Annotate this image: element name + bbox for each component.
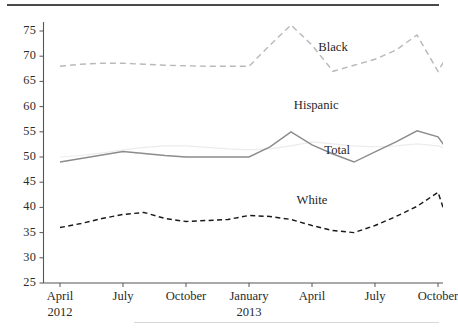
x-axis-tick-label: July bbox=[113, 289, 134, 304]
y-axis-tick-label: 75 bbox=[10, 23, 36, 38]
x-axis-year-label: 2013 bbox=[236, 305, 261, 320]
series-line-black bbox=[60, 25, 443, 71]
y-axis-tick-label: 70 bbox=[10, 48, 36, 63]
x-axis-tick-label: October bbox=[418, 289, 458, 304]
y-axis-tick-label: 30 bbox=[10, 250, 36, 265]
x-axis-tick-label: April bbox=[47, 289, 74, 304]
y-axis-tick-label: 35 bbox=[10, 225, 36, 240]
x-axis-year-label: 2012 bbox=[47, 305, 72, 320]
y-axis-tick-label: 40 bbox=[10, 199, 36, 214]
series-line-hispanic bbox=[60, 142, 443, 157]
series-label-hispanic: Hispanic bbox=[294, 98, 339, 113]
series-label-white: White bbox=[297, 193, 328, 208]
series-label-black: Black bbox=[318, 40, 347, 55]
y-axis-tick-label: 25 bbox=[10, 275, 36, 290]
series-line-white bbox=[60, 192, 443, 255]
y-axis-tick-label: 45 bbox=[10, 174, 36, 189]
y-axis-tick-label: 55 bbox=[10, 124, 36, 139]
y-axis-tick-label: 60 bbox=[10, 99, 36, 114]
y-axis-tick-label: 65 bbox=[10, 73, 36, 88]
series-line-total bbox=[60, 131, 443, 166]
chart-axes bbox=[40, 22, 444, 287]
x-axis-tick-label: October bbox=[166, 289, 207, 304]
y-axis-tick-label: 50 bbox=[10, 149, 36, 164]
x-axis-tick-label: January bbox=[229, 289, 268, 304]
chart-series bbox=[60, 25, 443, 255]
series-label-total: Total bbox=[324, 143, 350, 158]
x-axis-tick-label: April bbox=[299, 289, 326, 304]
x-axis-tick-label: July bbox=[365, 289, 386, 304]
